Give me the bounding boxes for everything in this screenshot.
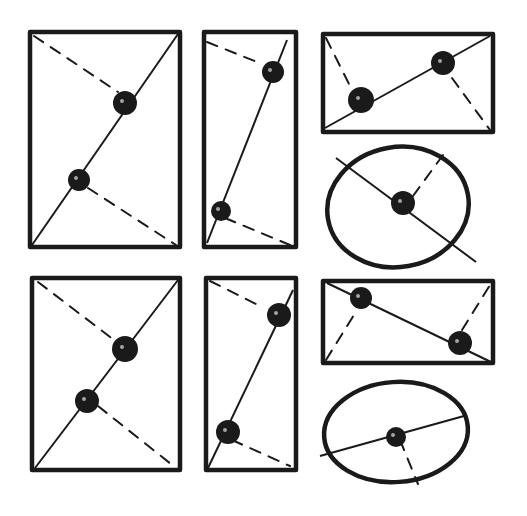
panel-tall-rect-1	[30, 32, 180, 247]
dot-highlight	[223, 428, 227, 432]
focal-dot	[386, 427, 406, 447]
panel-wide-rect-1	[323, 34, 493, 132]
dot-highlight	[120, 345, 124, 349]
focal-dot	[391, 191, 415, 215]
dot-highlight	[120, 99, 124, 103]
dot-highlight	[216, 207, 220, 211]
dot-highlight	[82, 397, 86, 401]
solid-diagonal-line	[35, 280, 178, 468]
dot-highlight	[438, 59, 442, 63]
dashed-line	[413, 155, 443, 196]
dashed-line	[38, 282, 118, 343]
panel-narrow-rect-1	[204, 32, 296, 247]
focal-dot	[211, 201, 231, 221]
dashed-line	[400, 440, 418, 484]
dashed-line	[462, 285, 490, 330]
panel-ellipse-1	[318, 136, 479, 279]
panel-narrow-rect-2	[206, 278, 296, 470]
dashed-line	[232, 440, 290, 466]
dashed-line	[34, 36, 118, 92]
sketch-canvas	[0, 0, 527, 516]
focal-dot	[216, 420, 240, 444]
panel-wide-rect-2	[323, 281, 493, 363]
focal-dot	[112, 336, 138, 362]
focal-dot	[75, 389, 99, 413]
panel-tall-rect-2	[32, 278, 180, 470]
dashed-line	[225, 218, 290, 245]
dot-highlight	[274, 311, 278, 315]
dashed-line	[207, 42, 262, 64]
dot-highlight	[391, 433, 395, 437]
focal-dot	[68, 169, 90, 191]
focal-dot	[113, 91, 137, 115]
dashed-line	[88, 188, 176, 245]
dashed-line	[326, 310, 357, 360]
focal-dot	[348, 87, 374, 113]
dashed-line	[98, 406, 176, 468]
dot-highlight	[268, 68, 272, 72]
focal-dot	[431, 51, 455, 75]
focal-dot	[350, 287, 372, 309]
dot-highlight	[455, 339, 459, 343]
focal-dot	[267, 303, 291, 327]
panel-ellipse-2	[320, 377, 471, 487]
dot-highlight	[398, 199, 402, 203]
solid-diagonal-line	[325, 36, 490, 128]
focal-dot	[448, 331, 472, 355]
dot-highlight	[74, 176, 78, 180]
dashed-line	[210, 281, 262, 307]
dashed-line	[452, 78, 490, 130]
sketch-diagram	[0, 0, 527, 516]
dashed-line	[326, 38, 352, 90]
solid-diagonal-line	[32, 34, 178, 245]
focal-dot	[262, 61, 284, 83]
dot-highlight	[356, 294, 360, 298]
dot-highlight	[356, 96, 360, 100]
